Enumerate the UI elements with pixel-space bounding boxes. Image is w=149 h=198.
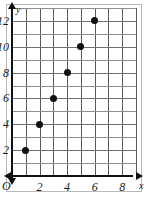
grid-line-horizontal [12,34,136,35]
y-axis-arrow-up-icon [8,2,16,9]
x-axis-line [8,175,133,177]
x-tick-label: 4 [64,181,70,193]
grid-line-horizontal [12,21,136,22]
coordinate-plot-figure: O x y 2468 24681012 [0,0,149,198]
data-point [36,121,43,128]
y-axis-line [11,6,13,178]
grid-line-horizontal [12,47,136,48]
grid-line-horizontal [12,86,136,87]
y-tick-label: 6 [2,92,9,104]
x-axis-arrow-right-icon [136,172,143,180]
grid-line-horizontal [12,8,136,9]
data-point [50,95,57,102]
y-tick-label: 10 [0,41,9,53]
grid-line-vertical [136,8,137,176]
grid-line-horizontal [12,137,136,138]
grid-line-horizontal [12,73,136,74]
plot-grid [12,8,136,176]
y-tick-label: 2 [2,144,9,156]
grid-line-horizontal [12,111,136,112]
x-tick-label: 6 [92,181,98,193]
grid-line-horizontal [12,124,136,125]
data-point [64,69,71,76]
y-axis-label: y [16,5,20,15]
grid-line-horizontal [12,98,136,99]
x-tick-label: 8 [119,181,125,193]
grid-line-horizontal [12,150,136,151]
x-tick-label: 2 [37,181,43,193]
origin-label: O [2,180,11,192]
x-axis-label: x [139,181,143,191]
y-tick-label: 4 [2,118,9,130]
data-point [22,147,29,154]
grid-line-horizontal [12,60,136,61]
y-tick-label: 8 [2,67,9,79]
y-tick-label: 12 [0,15,9,27]
grid-line-horizontal [12,163,136,164]
